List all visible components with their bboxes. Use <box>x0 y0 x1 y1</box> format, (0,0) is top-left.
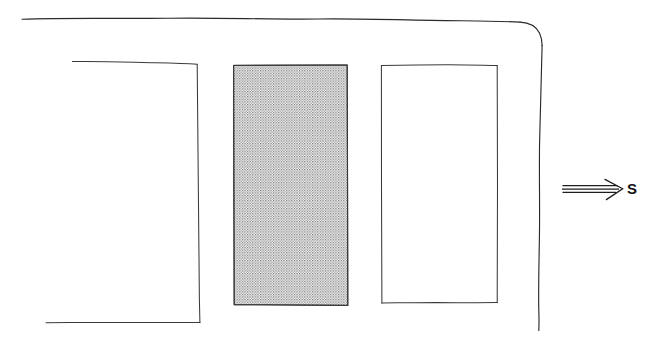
boundary-top-edge <box>22 18 520 22</box>
direction-label-s: S <box>627 181 637 196</box>
plan-diagram-canvas <box>0 0 662 340</box>
direction-arrow <box>562 179 623 199</box>
bay-right-top-edge <box>381 65 497 66</box>
bay-centre-shaded-fill <box>234 65 348 305</box>
boundary-corner-rounded <box>520 22 542 45</box>
bay-left-right-edge <box>197 64 200 322</box>
bay-left <box>46 61 200 322</box>
boundary-right-edge <box>539 45 542 330</box>
bay-right <box>381 65 497 303</box>
bay-right-left-edge <box>381 66 382 303</box>
bay-left-top-edge <box>73 61 198 64</box>
figure-root: S <box>0 0 662 340</box>
bay-centre <box>234 65 348 305</box>
